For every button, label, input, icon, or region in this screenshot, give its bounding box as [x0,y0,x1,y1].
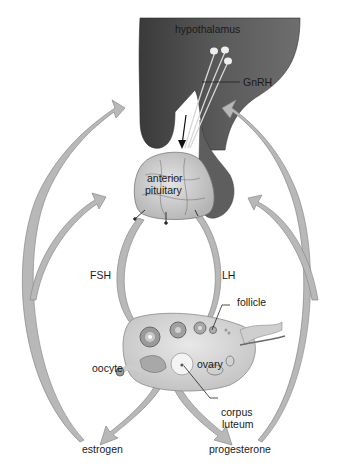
oocyte-label: oocyte [92,362,123,374]
fsh-label: FSH [90,269,111,281]
estrogen-label: estrogen [82,443,123,455]
corpus-luteum-label-line2: luteum [222,418,254,430]
corpus-luteum-label-line1: corpus [221,406,253,418]
anterior-pituitary-label-line1: anterior [147,172,183,184]
progesterone-label: progesterone [209,443,271,455]
follicle-label: follicle [237,296,266,308]
ovary-shape [116,305,285,398]
ovary-label: ovary [197,358,223,370]
feedback-arrows [22,100,318,445]
lh-label: LH [222,269,235,281]
gnrh-label: GnRH [243,76,272,88]
anterior-pituitary-label-line2: pituitary [145,184,182,196]
hpo-axis-diagram: hypothalamus GnRH anterior pituitary FSH… [0,0,339,471]
hypothalamus-label: hypothalamus [175,23,240,35]
